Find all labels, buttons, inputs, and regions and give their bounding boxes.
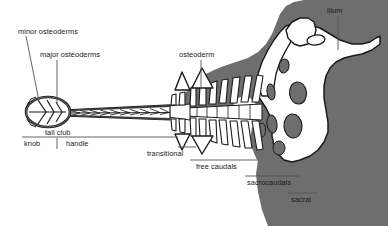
diagram-canvas: minor osteoderms major osteoderms osteod… xyxy=(0,0,388,226)
label-ilium: ilium xyxy=(327,6,342,15)
label-major-osteoderms: major osteoderms xyxy=(40,50,100,59)
tail-club-knob xyxy=(26,97,70,127)
label-knob: knob xyxy=(24,139,40,148)
label-sacrocaudals: sacrocaudals xyxy=(247,178,291,187)
leader-minor-osteoderms xyxy=(26,36,39,101)
label-sacral: sacral xyxy=(291,195,311,204)
label-free-caudals: free caudals xyxy=(196,162,237,171)
label-handle: handle xyxy=(66,139,89,148)
tail-club-handle xyxy=(62,105,170,120)
label-transitional: transitional xyxy=(147,149,183,158)
label-osteoderm: osteoderm xyxy=(179,50,214,59)
label-tail-club: tail club xyxy=(45,128,71,137)
label-minor-osteoderms: minor osteoderms xyxy=(18,27,78,36)
